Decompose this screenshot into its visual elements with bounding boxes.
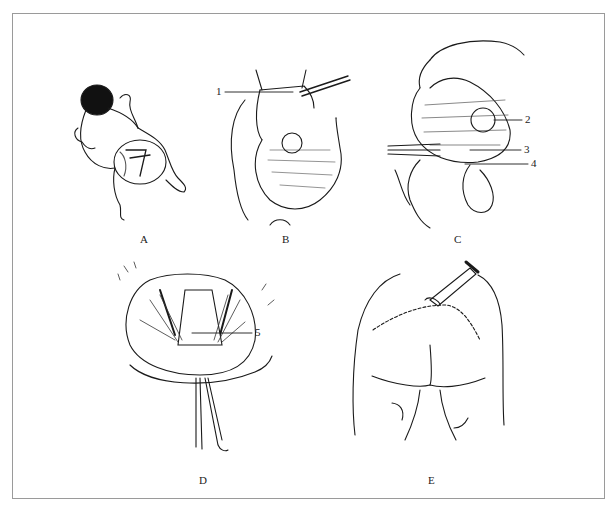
callout-2: 2 (525, 113, 531, 125)
panel-label-d: D (199, 474, 207, 486)
panel-b-drawing (231, 70, 350, 225)
callout-4: 4 (531, 157, 537, 169)
panel-label-c: C (454, 233, 461, 245)
panel-e-drawing (353, 262, 504, 440)
callout-5: 5 (255, 326, 261, 338)
panel-a-drawing (75, 85, 186, 220)
panel-d-drawing (118, 262, 274, 451)
panel-label-b: B (282, 233, 289, 245)
surgical-illustration (0, 0, 614, 509)
callout-1: 1 (216, 85, 222, 97)
panel-label-e: E (428, 474, 435, 486)
panel-c-drawing (388, 41, 524, 228)
callout-3: 3 (524, 143, 530, 155)
panel-label-a: A (140, 233, 148, 245)
